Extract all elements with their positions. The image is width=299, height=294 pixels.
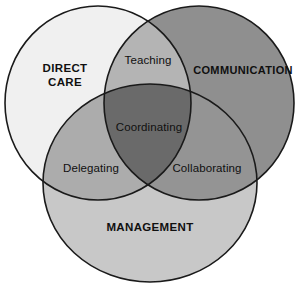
venn-diagram: DIRECT CARE COMMUNICATION MANAGEMENT Tea… [0, 0, 299, 294]
venn-diagram-canvas [0, 0, 299, 294]
